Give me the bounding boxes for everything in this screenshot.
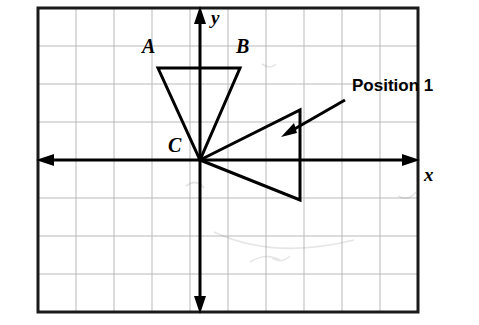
vertex-label-b: B — [235, 35, 249, 57]
annotation-label-position-1: Position 1 — [352, 76, 433, 95]
vertex-label-c: C — [168, 134, 182, 156]
vertex-label-a: A — [140, 35, 155, 57]
figure-canvas: A B C y x Position 1 — [0, 0, 479, 325]
y-axis-label: y — [209, 7, 220, 28]
x-axis-label: x — [423, 164, 434, 185]
